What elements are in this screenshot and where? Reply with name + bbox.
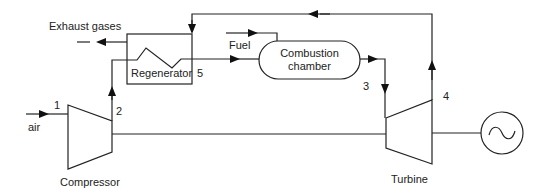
state-point-3: 3	[363, 81, 369, 92]
exhaust-gases-label: Exhaust gases	[49, 21, 121, 32]
compressor-shape	[68, 105, 112, 169]
state-point-2: 2	[116, 106, 122, 117]
turbine-shape	[386, 100, 432, 164]
compressor-label: Compressor	[60, 177, 120, 188]
state-point-4: 4	[443, 91, 449, 102]
combustion-label-line1: Combustion	[262, 47, 357, 60]
state-point-1: 1	[54, 100, 60, 111]
combustion-chamber-label: Combustion chamber	[262, 47, 357, 73]
state-point-5: 5	[197, 68, 203, 79]
turbine-label: Turbine	[391, 174, 428, 185]
fuel-label: Fuel	[229, 40, 250, 51]
combustion-label-line2: chamber	[262, 60, 357, 73]
air-label: air	[28, 122, 40, 133]
regenerator-label: Regenerator	[131, 68, 192, 79]
